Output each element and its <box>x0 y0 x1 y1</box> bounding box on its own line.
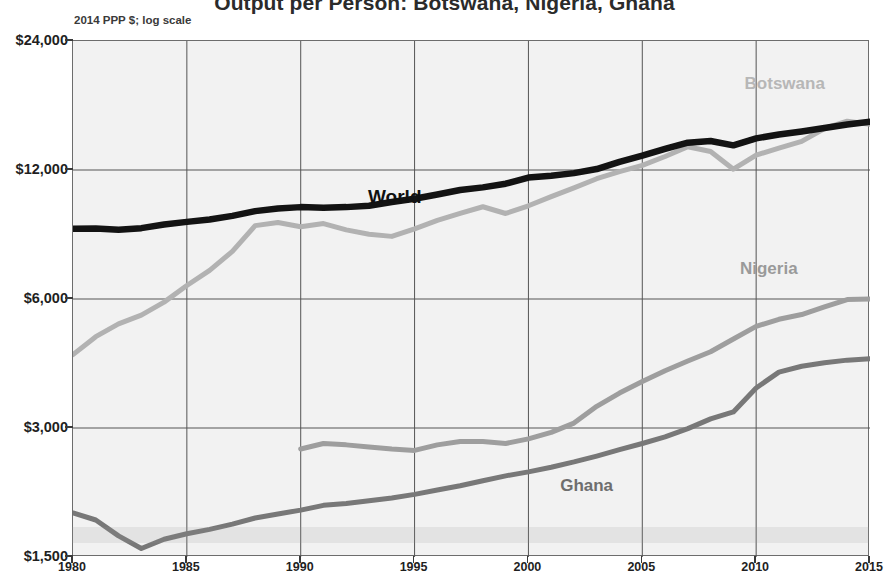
x-axis-tick-mark <box>413 556 415 563</box>
series-label-ghana: Ghana <box>560 476 613 496</box>
series-label-nigeria: Nigeria <box>740 259 798 279</box>
y-axis-tick-label: $6,000 <box>0 290 68 306</box>
y-axis-tick-mark <box>65 39 73 41</box>
y-axis-tick-mark <box>65 168 73 170</box>
series-label-world: World <box>368 186 421 208</box>
y-axis-tick-mark <box>65 426 73 428</box>
chart-subtitle: 2014 PPP $; log scale <box>74 14 191 26</box>
y-axis-tick-mark <box>65 297 73 299</box>
x-axis-tick-mark <box>71 556 73 563</box>
chart-title: Output per Person: Botswana, Nigeria, Gh… <box>0 0 889 15</box>
y-axis-tick-label: $3,000 <box>0 419 68 435</box>
chart-canvas <box>73 41 870 557</box>
x-axis-tick-mark <box>299 556 301 563</box>
y-axis-tick-label: $24,000 <box>0 32 68 48</box>
x-axis-tick-mark <box>527 556 529 563</box>
plot-area <box>72 40 869 556</box>
x-axis-tick-mark <box>641 556 643 563</box>
y-axis-tick-label: $12,000 <box>0 161 68 177</box>
series-label-botswana: Botswana <box>745 74 825 94</box>
x-axis-tick-mark <box>754 556 756 563</box>
x-axis-tick-mark <box>185 556 187 563</box>
x-axis-tick-mark <box>868 556 870 563</box>
chart-root: Output per Person: Botswana, Nigeria, Gh… <box>0 0 889 579</box>
